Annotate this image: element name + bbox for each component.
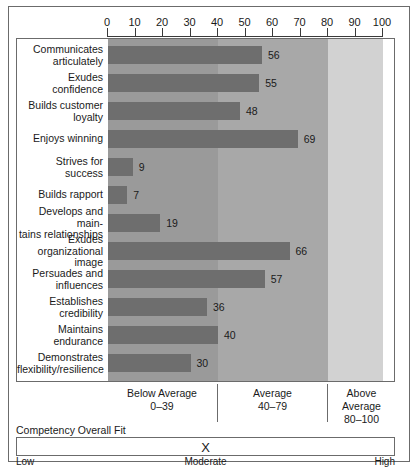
bar-row-label: Strives for success bbox=[17, 156, 103, 179]
legend-average-name: Average bbox=[218, 387, 327, 400]
bar bbox=[108, 354, 191, 372]
legend-average: Average 40–79 bbox=[217, 384, 327, 422]
axis-tick bbox=[217, 28, 218, 37]
bar bbox=[108, 298, 207, 316]
axis-tick bbox=[327, 28, 328, 37]
axis-tick-labels: 0102030405060708090100 bbox=[107, 8, 382, 24]
bar-row-label: Exudes confidence bbox=[17, 72, 103, 95]
competency-report: 0102030405060708090100 Communicatesartic… bbox=[0, 0, 419, 469]
bar-row-label: Establishes credibility bbox=[17, 296, 103, 319]
bar-row: Exudes confidence55 bbox=[17, 69, 394, 97]
bar-row-label-line2: flexibility/resilience bbox=[17, 363, 103, 375]
bar-row-label: Communicatesarticulately bbox=[17, 44, 103, 67]
legend-above-average-name: Above Average bbox=[328, 387, 395, 413]
bar-row-label-line2: loyalty bbox=[17, 111, 103, 123]
bar-row-label-line1: Establishes credibility bbox=[17, 296, 103, 319]
bar-value-label: 30 bbox=[197, 357, 209, 369]
bar-row: Persuades andinfluences57 bbox=[17, 265, 394, 293]
bar-row: Maintains endurance40 bbox=[17, 321, 394, 349]
overall-fit-scale-high: High bbox=[374, 456, 395, 467]
bar-value-label: 56 bbox=[268, 49, 280, 61]
axis-tick bbox=[162, 28, 163, 37]
band-legend: Below Average 0–39 Average 40–79 Above A… bbox=[16, 384, 395, 422]
bar bbox=[108, 102, 240, 120]
x-axis bbox=[107, 26, 382, 38]
bar bbox=[108, 326, 218, 344]
legend-above-average-range: 80–100 bbox=[328, 413, 395, 426]
bar-value-label: 57 bbox=[271, 273, 283, 285]
bar-row-label-line1: Builds rapport bbox=[17, 189, 103, 201]
bar-row-label-line1: Exudes organizational bbox=[17, 234, 103, 257]
axis-tick bbox=[272, 28, 273, 37]
bar-row-label-line1: Strives for success bbox=[17, 156, 103, 179]
chart-plot-area: Communicatesarticulately56Exudes confide… bbox=[16, 38, 395, 382]
bar-row-label: Maintains endurance bbox=[17, 324, 103, 347]
bar-row: Enjoys winning69 bbox=[17, 125, 394, 153]
bar-row-label-line1: Develops and main- bbox=[17, 206, 103, 229]
bar-row-label: Builds customerloyalty bbox=[17, 100, 103, 123]
bar bbox=[108, 186, 127, 204]
bar-value-label: 48 bbox=[246, 105, 258, 117]
bar-row-label-line1: Persuades and bbox=[17, 268, 103, 280]
bar-row: Communicatesarticulately56 bbox=[17, 41, 394, 69]
bar bbox=[108, 74, 259, 92]
bar bbox=[108, 158, 133, 176]
bar-row-label-line1: Maintains endurance bbox=[17, 324, 103, 347]
legend-below-average-range: 0–39 bbox=[107, 400, 217, 413]
bar-rows: Communicatesarticulately56Exudes confide… bbox=[17, 39, 394, 381]
overall-fit-marker: X bbox=[201, 439, 210, 454]
axis-tick bbox=[107, 28, 108, 37]
bar-value-label: 9 bbox=[139, 161, 145, 173]
bar-row-label-line2: articulately bbox=[17, 55, 103, 67]
bar-row-label-line2: influences bbox=[17, 279, 103, 291]
overall-fit-box: X bbox=[16, 437, 395, 456]
legend-average-range: 40–79 bbox=[218, 400, 327, 413]
bar-value-label: 55 bbox=[265, 77, 277, 89]
legend-above-average: Above Average 80–100 bbox=[327, 384, 395, 422]
bar-row: Builds customerloyalty48 bbox=[17, 97, 394, 125]
bar-row-label-line1: Builds customer bbox=[17, 100, 103, 112]
overall-fit-title: Competency Overall Fit bbox=[16, 424, 126, 436]
bar bbox=[108, 242, 290, 260]
bar-row-label: Exudes organizationalimage bbox=[17, 234, 103, 269]
axis-tick bbox=[382, 28, 383, 37]
bar-row-label-line1: Demonstrates bbox=[17, 352, 103, 364]
bar-row-label-line1: Enjoys winning bbox=[17, 133, 103, 145]
bar-row-label: Persuades andinfluences bbox=[17, 268, 103, 291]
bar-row-label: Enjoys winning bbox=[17, 133, 103, 145]
legend-below-average: Below Average 0–39 bbox=[107, 384, 217, 422]
bar-row-label-line1: Exudes confidence bbox=[17, 72, 103, 95]
axis-tick bbox=[135, 28, 136, 37]
axis-tick bbox=[300, 28, 301, 37]
overall-fit-scale-low: Low bbox=[16, 456, 34, 467]
bar-value-label: 36 bbox=[213, 301, 225, 313]
bar-value-label: 69 bbox=[304, 133, 316, 145]
bar bbox=[108, 270, 265, 288]
bar bbox=[108, 214, 160, 232]
axis-tick bbox=[355, 28, 356, 37]
bar bbox=[108, 46, 262, 64]
bar-value-label: 66 bbox=[296, 245, 308, 257]
axis-tick bbox=[245, 28, 246, 37]
axis-tick bbox=[190, 28, 191, 37]
bar-row: Strives for success9 bbox=[17, 153, 394, 181]
bar-row-label-line1: Communicates bbox=[17, 44, 103, 56]
bar-row: Establishes credibility36 bbox=[17, 293, 394, 321]
bar-row: Exudes organizationalimage66 bbox=[17, 237, 394, 265]
bar-value-label: 40 bbox=[224, 329, 236, 341]
bar-value-label: 19 bbox=[166, 217, 178, 229]
overall-fit-scale: Low Moderate High bbox=[16, 456, 395, 468]
bar-value-label: 7 bbox=[133, 189, 139, 201]
bar-row: Demonstratesflexibility/resilience30 bbox=[17, 349, 394, 377]
bar-row-label: Builds rapport bbox=[17, 189, 103, 201]
bar bbox=[108, 130, 298, 148]
overall-fit-scale-mid: Moderate bbox=[184, 456, 226, 467]
legend-below-average-name: Below Average bbox=[107, 387, 217, 400]
bar-row-label: Demonstratesflexibility/resilience bbox=[17, 352, 103, 375]
